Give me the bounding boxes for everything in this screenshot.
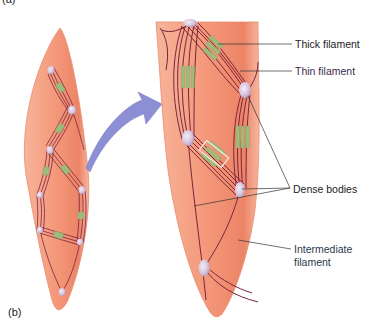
magnification-arrow bbox=[86, 92, 162, 172]
small-muscle-cell bbox=[24, 28, 88, 310]
large-muscle-cell bbox=[156, 19, 259, 317]
thin-filament-label: Thin filament bbox=[295, 65, 355, 77]
intermediate-filament-label-line1: Intermediate bbox=[294, 243, 352, 255]
intermediate-filament-label-line2: filament bbox=[294, 256, 331, 268]
smooth-muscle-diagram: (a) bbox=[0, 0, 372, 321]
dense-bodies-label: Dense bodies bbox=[293, 183, 357, 195]
thick-filament-label: Thick filament bbox=[295, 38, 360, 50]
panel-b-label: (b) bbox=[8, 306, 21, 318]
